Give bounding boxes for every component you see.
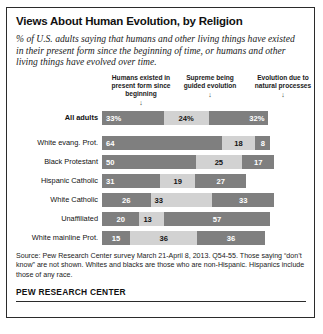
chart-row: Hispanic Catholic311927 <box>16 174 306 188</box>
page-title: Views About Human Evolution, by Religion <box>16 15 306 28</box>
bar-segment: 18 <box>222 136 256 150</box>
bar-segment: 27 <box>195 174 245 188</box>
bar-value-label: 32% <box>249 113 264 122</box>
bar-segment: 64 <box>102 136 222 150</box>
bar-segment: 31 <box>102 174 160 188</box>
bar-segment: 15 <box>102 231 130 245</box>
bar-value-label: 64 <box>106 138 114 147</box>
bar-segment: 20 <box>102 212 139 226</box>
column-header-supreme-being: Supreme being guided evolution ↓ <box>180 74 240 98</box>
bar-segment: 8 <box>255 136 270 150</box>
bar-segment: 36 <box>197 231 264 245</box>
chart-row: White Catholic263333 <box>16 193 306 207</box>
bar-track: 311927 <box>102 174 306 188</box>
column-headers: Humans existed in present form since beg… <box>102 74 304 110</box>
chart-row: White evang. Prot.64188 <box>16 136 306 150</box>
bar-value-label: 36 <box>227 233 235 242</box>
bar-value-label: 33 <box>155 195 163 204</box>
row-label: All adults <box>16 113 102 122</box>
bar-segment: 32% <box>209 111 269 125</box>
chart-subtitle: % of U.S. adults saying that humans and … <box>16 33 306 68</box>
bar-segment: 33% <box>102 111 164 125</box>
chart-rows: All adults33%24%32%White evang. Prot.641… <box>16 111 306 245</box>
bar-track: 502517 <box>102 155 306 169</box>
bar-value-label: 18 <box>234 138 242 147</box>
bar-segment: 36 <box>130 231 197 245</box>
bar-value-label: 25 <box>215 157 223 166</box>
bar-value-label: 24% <box>179 113 194 122</box>
row-label: Black Protestant <box>16 157 102 166</box>
column-header-label: Supreme being guided evolution <box>184 74 237 89</box>
chart-footer: Source: Pew Research Center survey March… <box>16 252 306 297</box>
footer-rule <box>16 301 306 302</box>
bar-segment: 33 <box>212 193 274 207</box>
chart-row: All adults33%24%32% <box>16 111 306 125</box>
bar-track: 153636 <box>102 231 306 245</box>
bar-segment: 26 <box>102 193 151 207</box>
bar-track: 263333 <box>102 193 306 207</box>
bar-value-label: 20 <box>116 214 124 223</box>
bar-value-label: 8 <box>261 138 265 147</box>
source-note: Source: Pew Research Center survey March… <box>16 252 306 280</box>
row-label: Hispanic Catholic <box>16 176 102 185</box>
row-label: White Catholic <box>16 195 102 204</box>
bar-track: 33%24%32% <box>102 111 306 125</box>
column-header-label: Evolution due to natural processes <box>255 74 311 89</box>
chart-row: Black Protestant502517 <box>16 155 306 169</box>
row-label: Unaffiliated <box>16 214 102 223</box>
bar-value-label: 57 <box>213 214 221 223</box>
chart-row: Unaffiliated201357 <box>16 212 306 226</box>
bar-value-label: 33% <box>106 113 121 122</box>
bar-value-label: 13 <box>143 214 151 223</box>
bar-value-label: 26 <box>122 195 130 204</box>
brand-label: PEW RESEARCH CENTER <box>16 287 306 297</box>
column-header-label: Humans existed in present form since beg… <box>112 74 171 97</box>
bar-segment: 50 <box>102 155 196 169</box>
bar-value-label: 19 <box>173 176 181 185</box>
row-label: White mainline Prot. <box>16 233 102 242</box>
bar-segment: 19 <box>160 174 196 188</box>
bar-value-label: 17 <box>254 157 262 166</box>
bar-value-label: 50 <box>106 157 114 166</box>
bar-segment: 33 <box>151 193 213 207</box>
bar-value-label: 36 <box>159 233 167 242</box>
bar-segment: 17 <box>242 155 274 169</box>
bar-value-label: 15 <box>112 233 120 242</box>
down-arrow-icon: ↓ <box>246 91 320 98</box>
down-arrow-icon: ↓ <box>180 91 240 98</box>
bar-value-label: 33 <box>239 195 247 204</box>
bar-value-label: 31 <box>106 176 114 185</box>
column-header-present-form: Humans existed in present form since beg… <box>102 74 180 106</box>
bar-segment: 25 <box>196 155 243 169</box>
bar-track: 64188 <box>102 136 306 150</box>
chart-figure: Views About Human Evolution, by Religion… <box>6 7 315 318</box>
bar-value-label: 27 <box>216 176 224 185</box>
column-header-natural-processes: Evolution due to natural processes ↓ <box>246 74 320 98</box>
bar-track: 201357 <box>102 212 306 226</box>
bar-segment: 13 <box>139 212 163 226</box>
chart-row: White mainline Prot.153636 <box>16 231 306 245</box>
row-label: White evang. Prot. <box>16 138 102 147</box>
bar-segment: 24% <box>164 111 209 125</box>
bar-segment: 57 <box>164 212 271 226</box>
down-arrow-icon: ↓ <box>102 99 180 106</box>
